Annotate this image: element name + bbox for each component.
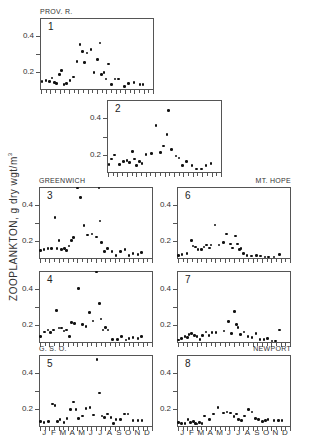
x-tick <box>187 342 188 347</box>
station-label: MT. HOPE <box>231 177 291 184</box>
y-tick-label: 0.2 <box>149 320 171 329</box>
x-tick <box>138 342 139 346</box>
data-point <box>225 233 228 236</box>
data-point <box>60 327 63 330</box>
data-point <box>43 248 46 251</box>
data-point <box>190 239 193 242</box>
panel-number: 3 <box>47 190 53 201</box>
x-tick <box>281 258 282 263</box>
x-tick <box>78 89 79 94</box>
data-point <box>210 162 213 165</box>
x-tick <box>147 342 148 346</box>
data-point <box>240 419 243 422</box>
data-point <box>229 412 232 415</box>
x-tick <box>262 258 263 263</box>
x-tick <box>49 258 50 263</box>
x-tick <box>152 426 153 431</box>
data-point <box>90 48 93 51</box>
month-label: F <box>187 428 196 437</box>
panel-7: 70.20.4 <box>177 271 291 343</box>
month-label: A <box>105 428 114 437</box>
x-tick <box>197 258 198 263</box>
x-tick <box>207 172 208 176</box>
x-tick <box>152 258 153 263</box>
data-point <box>68 245 71 248</box>
x-tick <box>290 426 291 431</box>
data-point <box>85 325 88 328</box>
data-point <box>200 248 203 251</box>
x-tick <box>50 89 51 94</box>
x-tick <box>105 342 106 347</box>
panel-number: 6 <box>185 190 191 201</box>
data-point <box>247 408 250 411</box>
data-point <box>85 407 88 410</box>
data-point <box>141 419 144 422</box>
data-point <box>180 337 183 340</box>
data-point <box>222 241 225 244</box>
data-point <box>92 414 95 417</box>
x-tick <box>201 258 202 262</box>
x-tick <box>77 258 78 263</box>
data-point <box>83 61 86 64</box>
data-point <box>196 335 199 338</box>
data-point <box>55 309 58 312</box>
station-label: G. S. O. <box>39 345 67 352</box>
data-point <box>95 236 98 239</box>
data-point <box>96 58 99 61</box>
x-tick <box>108 172 109 177</box>
data-point <box>226 411 229 414</box>
data-point <box>108 163 111 166</box>
x-tick <box>60 89 61 94</box>
data-point <box>54 216 57 219</box>
data-point <box>98 187 101 190</box>
x-tick <box>54 258 55 262</box>
x-tick <box>82 342 83 346</box>
x-tick <box>215 342 216 347</box>
data-point <box>72 76 75 79</box>
data-point <box>70 239 73 242</box>
month-label: M <box>77 428 86 437</box>
month-label: J <box>224 428 233 437</box>
data-point <box>51 77 54 80</box>
data-point <box>91 233 94 236</box>
data-point <box>133 158 136 161</box>
x-tick <box>143 342 144 347</box>
data-point <box>255 332 258 335</box>
data-point <box>208 418 211 421</box>
month-label: J <box>40 428 49 437</box>
x-tick <box>73 258 74 262</box>
x-tick <box>183 342 184 346</box>
data-point <box>118 163 121 166</box>
x-tick <box>45 258 46 262</box>
data-point <box>58 73 61 76</box>
x-tick <box>101 258 102 262</box>
x-tick <box>197 172 198 176</box>
data-point <box>79 43 82 46</box>
data-point <box>235 413 238 416</box>
x-tick <box>155 172 156 177</box>
data-point <box>155 124 158 127</box>
x-tick <box>229 258 230 262</box>
data-point <box>203 246 206 249</box>
data-point <box>47 420 50 423</box>
data-point <box>123 85 126 88</box>
panel-2: 20.20.4 <box>107 100 222 173</box>
x-tick <box>243 258 244 263</box>
data-point <box>142 83 145 86</box>
y-minor-tick <box>35 307 40 308</box>
data-point <box>99 42 102 45</box>
data-point <box>175 155 178 158</box>
data-point <box>89 406 92 409</box>
y-minor-tick <box>173 307 178 308</box>
month-label: F <box>49 428 58 437</box>
x-tick <box>55 89 56 93</box>
data-point <box>141 162 144 165</box>
data-point <box>229 243 232 246</box>
panel-number: 1 <box>48 21 54 32</box>
x-tick <box>41 89 42 94</box>
data-point <box>56 247 59 250</box>
x-tick <box>63 258 64 262</box>
x-tick <box>290 258 291 263</box>
data-point <box>43 331 46 334</box>
station-label: PROV. R. <box>40 8 73 15</box>
